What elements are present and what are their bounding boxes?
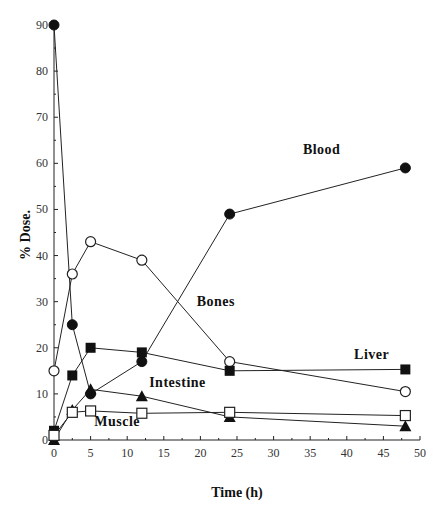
data-point-marker bbox=[400, 411, 410, 421]
y-axis-title: % Dose. bbox=[18, 210, 33, 260]
data-point-marker bbox=[400, 163, 410, 173]
label-blood: Blood bbox=[303, 142, 341, 157]
data-point-marker bbox=[86, 343, 96, 353]
data-point-marker bbox=[400, 364, 410, 374]
x-tick-label: 25 bbox=[231, 446, 243, 460]
x-tick-label: 35 bbox=[304, 446, 316, 460]
y-tick-label: 70 bbox=[36, 110, 48, 124]
data-point-marker bbox=[225, 209, 235, 219]
x-tick-label: 15 bbox=[158, 446, 170, 460]
series-labels: BloodBonesLiverIntestineMuscle bbox=[94, 142, 389, 429]
x-tick-label: 20 bbox=[194, 446, 206, 460]
data-point-marker bbox=[400, 387, 410, 397]
data-point-marker bbox=[67, 370, 77, 380]
label-intestine: Intestine bbox=[149, 375, 206, 390]
data-point-marker bbox=[225, 357, 235, 367]
series-group bbox=[48, 20, 411, 445]
data-point-marker bbox=[86, 237, 96, 247]
line-chart: 051015202530354045500102030405060708090 … bbox=[0, 0, 443, 514]
y-tick-label: 30 bbox=[36, 295, 48, 309]
x-tick-label: 5 bbox=[88, 446, 94, 460]
y-tick-label: 10 bbox=[36, 387, 48, 401]
data-point-marker bbox=[67, 269, 77, 279]
x-tick-label: 10 bbox=[121, 446, 133, 460]
series-blood bbox=[49, 20, 410, 399]
data-point-marker bbox=[137, 347, 147, 357]
data-point-marker bbox=[137, 255, 147, 265]
y-tick-label: 80 bbox=[36, 64, 48, 78]
y-tick-label: 20 bbox=[36, 341, 48, 355]
data-point-marker bbox=[67, 320, 77, 330]
x-axis-title: Time (h) bbox=[211, 485, 263, 501]
x-tick-label: 45 bbox=[377, 446, 389, 460]
data-point-marker bbox=[49, 430, 59, 440]
data-point-marker bbox=[225, 366, 235, 376]
x-tick-label: 50 bbox=[414, 446, 426, 460]
data-point-marker bbox=[85, 383, 97, 394]
y-tick-label: 60 bbox=[36, 156, 48, 170]
label-muscle: Muscle bbox=[94, 414, 140, 429]
y-tick-label: 0 bbox=[42, 433, 48, 447]
data-point-marker bbox=[49, 366, 59, 376]
x-tick-label: 0 bbox=[51, 446, 57, 460]
x-tick-label: 40 bbox=[341, 446, 353, 460]
data-point-marker bbox=[225, 407, 235, 417]
label-bones: Bones bbox=[197, 294, 235, 309]
y-tick-label: 90 bbox=[36, 18, 48, 32]
x-tick-label: 30 bbox=[268, 446, 280, 460]
data-point-marker bbox=[49, 20, 59, 30]
y-tick-label: 40 bbox=[36, 249, 48, 263]
data-point-marker bbox=[137, 357, 147, 367]
data-point-marker bbox=[67, 407, 77, 417]
label-liver: Liver bbox=[354, 347, 389, 362]
y-tick-label: 50 bbox=[36, 202, 48, 216]
